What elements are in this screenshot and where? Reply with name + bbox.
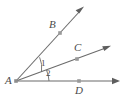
point-c-marker (75, 57, 79, 61)
point-label-b: B (49, 19, 56, 30)
ray-ad-arrowhead (112, 78, 120, 84)
point-d-marker (77, 79, 81, 83)
ray-ac-line (16, 48, 107, 82)
geometry-figure: A B C D 1 2 (0, 0, 124, 101)
geometry-canvas (0, 0, 124, 101)
vertex-a-marker (14, 79, 18, 83)
angle-label-1: 1 (41, 59, 46, 68)
ray-ab-arrowhead (76, 7, 84, 14)
ray-ac (16, 46, 111, 81)
point-b-marker (58, 31, 62, 35)
point-label-d: D (75, 85, 83, 96)
point-label-c: C (74, 42, 81, 53)
ray-ad (16, 78, 120, 84)
point-label-a: A (5, 75, 12, 86)
angle-label-2: 2 (46, 69, 51, 78)
ray-ac-arrowhead (102, 46, 111, 51)
